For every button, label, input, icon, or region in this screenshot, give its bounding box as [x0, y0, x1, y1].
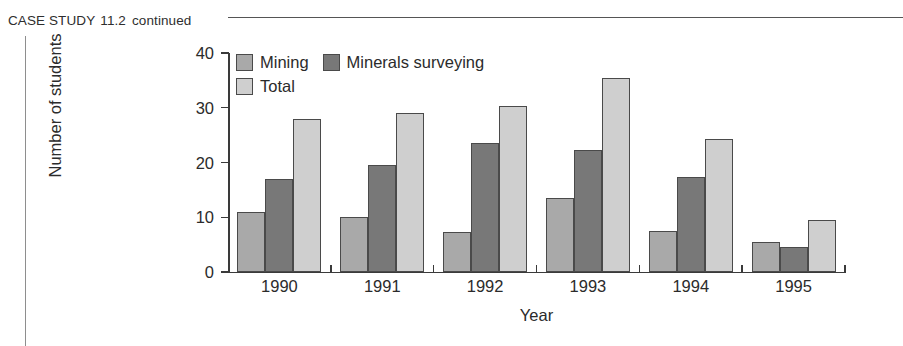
legend-row-2: Total	[236, 74, 498, 98]
bar-1991-mining	[340, 217, 368, 272]
legend-item-minerals-surveying[interactable]: Minerals surveying	[323, 53, 485, 72]
bar-1995-minerals-surveying	[780, 247, 808, 272]
y-tick-label-40: 40	[174, 44, 214, 63]
legend-item-total[interactable]: Total	[236, 77, 295, 96]
bar-1993-minerals-surveying	[574, 150, 602, 272]
legend-item-mining[interactable]: Mining	[236, 53, 309, 72]
y-axis-title: Number of students	[46, 0, 65, 223]
legend-label-total: Total	[260, 77, 295, 96]
bar-1993-mining	[546, 198, 574, 272]
bar-1991-minerals-surveying	[368, 165, 396, 272]
y-tick-label-20: 20	[174, 153, 214, 172]
legend-label-minerals-surveying: Minerals surveying	[347, 53, 485, 72]
legend-swatch-mining	[236, 54, 253, 71]
bar-1990-mining	[237, 212, 265, 272]
x-tick-label-1995: 1995	[739, 277, 849, 296]
x-tick-label-1993: 1993	[533, 277, 643, 296]
page-frame: CASE STUDY11.2continued Number of studen…	[0, 0, 903, 346]
x-tick-label-1994: 1994	[636, 277, 746, 296]
legend-row-1: Mining Minerals surveying	[236, 50, 498, 74]
x-axis-title: Year	[228, 306, 845, 325]
bar-1990-minerals-surveying	[265, 179, 293, 272]
bar-1993-total	[602, 78, 630, 272]
x-tick-label-1991: 1991	[327, 277, 437, 296]
bar-1994-total	[705, 139, 733, 272]
x-tick-label-1990: 1990	[224, 277, 334, 296]
bar-1995-total	[808, 220, 836, 272]
legend-swatch-minerals-surveying	[323, 54, 340, 71]
chart-legend: Mining Minerals surveying Total	[236, 50, 498, 98]
bar-1995-mining	[752, 242, 780, 272]
bar-chart: Number of students Year 010203040 199019…	[0, 0, 903, 346]
y-tick-label-30: 30	[174, 98, 214, 117]
legend-swatch-total	[236, 78, 253, 95]
bar-1994-minerals-surveying	[677, 177, 705, 272]
bar-1990-total	[293, 119, 321, 272]
bar-1992-mining	[443, 232, 471, 272]
y-tick-label-0: 0	[174, 263, 214, 282]
legend-label-mining: Mining	[260, 53, 309, 72]
x-tick-label-1992: 1992	[430, 277, 540, 296]
bar-1991-total	[396, 113, 424, 272]
y-tick-label-10: 10	[174, 208, 214, 227]
bar-1992-minerals-surveying	[471, 143, 499, 272]
bar-1994-mining	[649, 231, 677, 272]
bar-1992-total	[499, 106, 527, 272]
